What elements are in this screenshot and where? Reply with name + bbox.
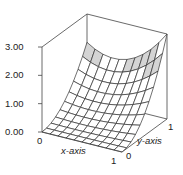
back-top-edge (87, 14, 167, 34)
z-axis-ticks (38, 47, 42, 132)
y-axis-label: y-axis (137, 136, 162, 146)
z-tick-label-3: 3.00 (5, 42, 24, 52)
y-tick-label-0: 0 (126, 151, 131, 161)
y-tick-label-1: 1 (168, 122, 173, 132)
z-tick-label-1: 1.00 (5, 99, 24, 109)
x-tick-label-1: 1 (111, 156, 116, 166)
x-tick-label-0: 0 (37, 136, 42, 146)
x-axis-label: x-axis (61, 146, 86, 156)
y-axis-label-text: y-axis (137, 135, 162, 146)
x-axis-label-text: x-axis (61, 145, 86, 156)
z-tick-label-2: 2.00 (5, 70, 24, 80)
left-top-edge (42, 14, 87, 47)
surface-plot (0, 0, 183, 175)
z-tick-label-0: 0.00 (5, 127, 24, 137)
